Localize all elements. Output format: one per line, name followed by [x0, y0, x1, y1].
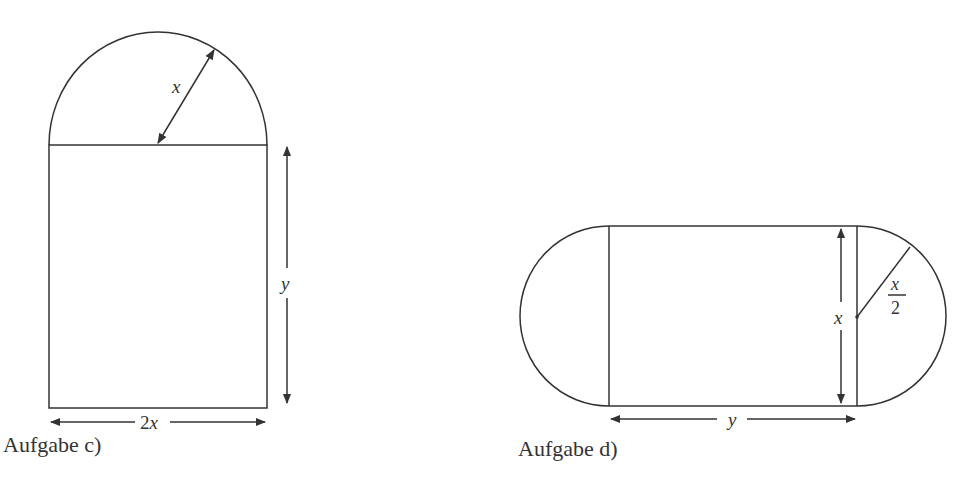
label-height-d: x — [833, 307, 843, 328]
label-radius-c: x — [171, 76, 181, 97]
radius-arrow — [158, 50, 214, 143]
caption-c: Aufgabe c) — [3, 432, 101, 458]
label-height-c: y — [279, 273, 290, 294]
label-radius-den-d: 2 — [891, 298, 900, 318]
figure-d — [520, 226, 946, 419]
semicircle-left — [520, 226, 609, 406]
diagram-canvas: x y 2x x x 2 y — [0, 0, 960, 493]
label-radius-num-d: x — [890, 274, 899, 294]
figure-c — [49, 32, 287, 422]
rectangle-c — [49, 145, 267, 408]
label-width-d: y — [726, 409, 737, 430]
semicircle-right — [857, 226, 946, 406]
caption-d: Aufgabe d) — [518, 436, 618, 462]
semicircle-top — [49, 32, 267, 145]
label-width-c: 2x — [140, 412, 159, 433]
radius-line-d — [857, 247, 910, 317]
